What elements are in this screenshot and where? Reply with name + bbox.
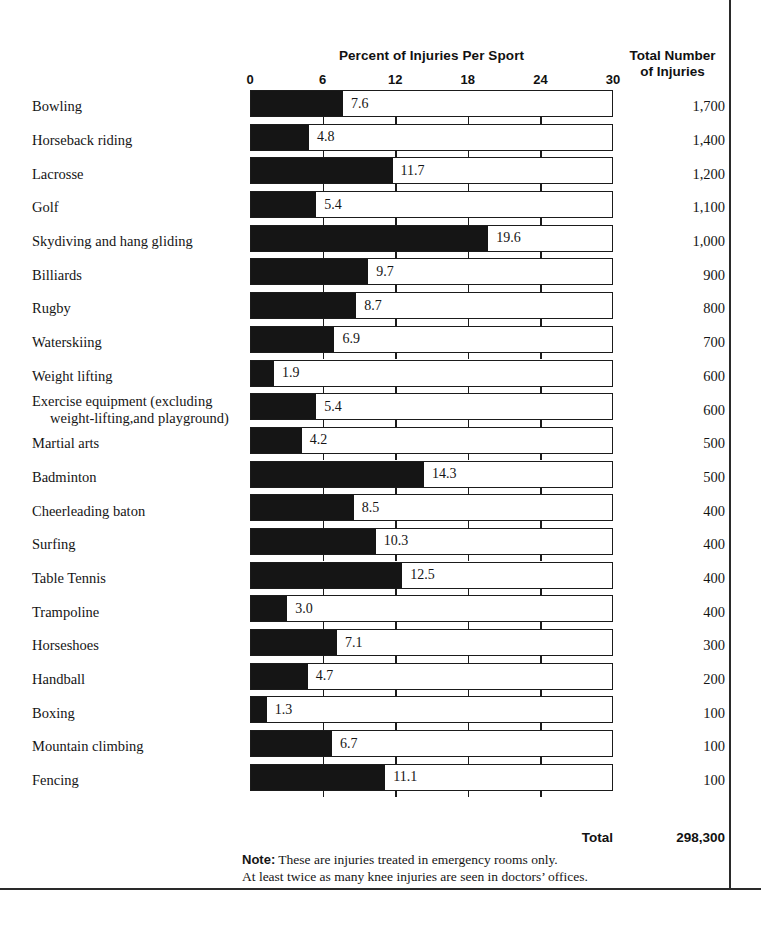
category-label: Martial arts xyxy=(32,427,244,461)
bar-fill xyxy=(251,630,337,655)
bar-row: 6.9 xyxy=(250,326,613,360)
category-label: Horseshoes xyxy=(32,629,244,663)
category-label-text: Waterskiing xyxy=(32,334,102,351)
bar-row: 14.3 xyxy=(250,461,613,495)
bar-fill xyxy=(251,158,393,183)
axis-tick-mark xyxy=(395,387,397,394)
bar-value-label: 7.6 xyxy=(351,96,369,112)
bar-value-label: 11.1 xyxy=(393,769,417,785)
bar-row: 4.8 xyxy=(250,124,613,158)
bar-row: 7.1 xyxy=(250,629,613,663)
bar-track: 12.5 xyxy=(250,562,613,589)
axis-tick-mark xyxy=(540,622,542,629)
category-label-text: Golf xyxy=(32,199,59,216)
bar-track: 7.6 xyxy=(250,90,613,117)
axis-tick-mark xyxy=(468,353,470,360)
total-injuries-value: 100 xyxy=(620,730,725,764)
axis-tick-mark xyxy=(540,218,542,225)
axis-tick-label: 18 xyxy=(461,72,475,87)
footnote-heading: Note: xyxy=(242,852,275,867)
axis-tick-mark xyxy=(323,488,325,495)
total-injuries-value: 1,100 xyxy=(620,191,725,225)
bar-value-label: 4.2 xyxy=(310,432,328,448)
axis-tick-mark xyxy=(395,622,397,629)
category-label: Trampoline xyxy=(32,595,244,629)
category-label-text: Bowling xyxy=(32,98,82,115)
bar-track: 8.7 xyxy=(250,292,613,319)
axis-tick-mark xyxy=(323,589,325,596)
axis-tick-mark xyxy=(468,757,470,764)
axis-tick-mark xyxy=(323,757,325,764)
bar-track: 4.2 xyxy=(250,427,613,454)
axis-tick-mark xyxy=(540,555,542,562)
bar-row: 6.7 xyxy=(250,730,613,764)
axis-tick-mark xyxy=(395,521,397,528)
bar-fill xyxy=(251,428,302,453)
category-label-text: Handball xyxy=(32,671,85,688)
bar-fill xyxy=(251,462,424,487)
total-injuries-value: 100 xyxy=(620,696,725,730)
category-label: Handball xyxy=(32,663,244,697)
total-injuries-value: 1,000 xyxy=(620,225,725,259)
bar-row: 12.5 xyxy=(250,562,613,596)
axis-tick-label: 24 xyxy=(533,72,547,87)
total-injuries-value: 1,200 xyxy=(620,157,725,191)
total-injuries-value: 500 xyxy=(620,427,725,461)
axis-tick-mark xyxy=(395,656,397,663)
bar-fill xyxy=(251,125,309,150)
axis-tick-mark xyxy=(323,420,325,427)
bar-fill xyxy=(251,495,354,520)
total-injuries-column: 1,7001,4001,2001,1001,000900800700600600… xyxy=(620,90,725,797)
axis-tick-mark xyxy=(395,285,397,292)
bar-row: 9.7 xyxy=(250,258,613,292)
axis-tick-mark xyxy=(323,555,325,562)
bar-track: 7.1 xyxy=(250,629,613,656)
category-label-text: Fencing xyxy=(32,772,79,789)
axis-tick-mark xyxy=(323,791,325,798)
bar-fill xyxy=(251,529,376,554)
bar-track: 14.3 xyxy=(250,461,613,488)
axis-tick-mark xyxy=(395,791,397,798)
axis-tick-mark xyxy=(540,488,542,495)
axis-tick-mark xyxy=(468,589,470,596)
axis-tick-mark xyxy=(468,387,470,394)
axis-tick-mark xyxy=(540,285,542,292)
total-column-header-line1: Total Number xyxy=(620,48,725,64)
axis-tick-mark xyxy=(468,184,470,191)
axis-tick-mark xyxy=(323,622,325,629)
bar-fill xyxy=(251,596,287,621)
axis-tick-mark xyxy=(323,521,325,528)
axis-tick-mark xyxy=(468,252,470,259)
axis-tick-mark xyxy=(468,656,470,663)
total-injuries-value: 900 xyxy=(620,258,725,292)
axis-tick-mark xyxy=(468,521,470,528)
axis-tick-mark xyxy=(395,319,397,326)
bar-fill xyxy=(251,697,267,722)
category-label-text: Exercise equipment (excluding xyxy=(32,393,229,410)
bar-row: 4.7 xyxy=(250,663,613,697)
bar-track: 19.6 xyxy=(250,225,613,252)
bar-fill xyxy=(251,394,316,419)
axis-tick-mark xyxy=(540,420,542,427)
axis-tick-mark xyxy=(540,656,542,663)
axis-tick-mark xyxy=(468,285,470,292)
category-label: Badminton xyxy=(32,461,244,495)
total-injuries-value: 500 xyxy=(620,461,725,495)
bar-track: 11.7 xyxy=(250,157,613,184)
category-label-text-line2: weight-lifting,and playground) xyxy=(32,410,229,427)
axis-tick-mark xyxy=(540,252,542,259)
bar-row: 11.1 xyxy=(250,764,613,798)
total-injuries-value: 600 xyxy=(620,393,725,427)
category-label: Bowling xyxy=(32,90,244,124)
bar-value-label: 11.7 xyxy=(401,163,425,179)
total-injuries-value: 200 xyxy=(620,663,725,697)
footnote-line1: These are injuries treated in emergency … xyxy=(275,852,557,867)
axis-tick-mark xyxy=(540,387,542,394)
bar-row: 19.6 xyxy=(250,225,613,259)
axis-tick-mark xyxy=(468,690,470,697)
axis-tick-mark xyxy=(323,690,325,697)
bar-value-label: 3.0 xyxy=(295,601,313,617)
bar-fill xyxy=(251,327,334,352)
bar-fill xyxy=(251,226,488,251)
axis-tick-mark xyxy=(395,353,397,360)
